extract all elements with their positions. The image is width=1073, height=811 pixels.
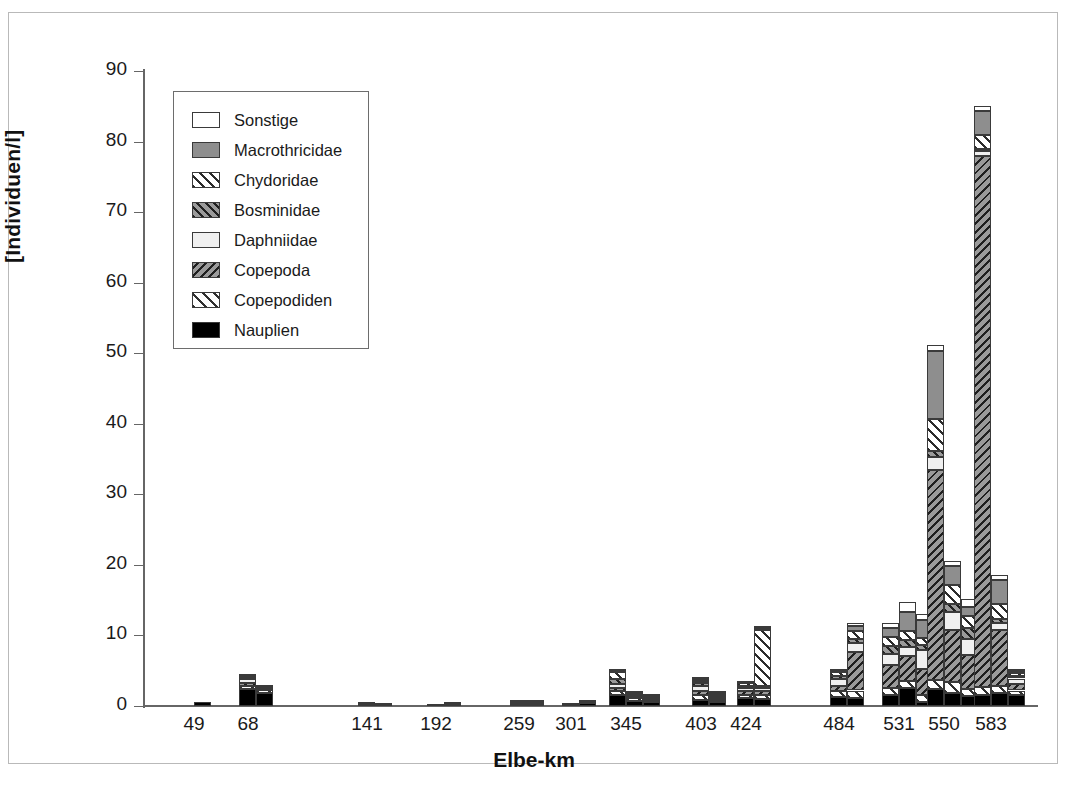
bar-segment-daphniidae [882,654,899,665]
y-tick [134,212,143,213]
y-axis-title: [Individuen/l] [1,130,25,263]
bar-segment-copepodiden [1008,691,1025,695]
bar-segment-chydoridae [830,672,847,676]
y-tick-label: 80 [67,129,127,151]
bar-segment-copepodiden [991,686,1008,693]
bar-583-1 [974,106,991,706]
bar-segment-nauplien [737,698,754,706]
bar-segment-sonstige [974,106,991,110]
x-tick-label-68: 68 [237,713,258,735]
bar-segment-chydoridae [609,672,626,679]
chart-frame: [Individuen/l] Elbe-km 01020304050607080… [8,12,1058,764]
bar-segment-chydoridae [899,631,916,641]
y-tick [134,635,143,636]
bar-segment-daphniidae [974,151,991,155]
bar-segment-copepoda [944,630,961,682]
bar-segment-copepodiden [737,695,754,699]
bar-403-2 [709,693,726,706]
bar-segment-copepodiden [375,703,392,705]
bar-segment-sonstige [643,694,660,696]
bar-segment-sonstige [527,700,544,702]
y-tick-label: 90 [67,58,127,80]
bar-segment-bosminidae [609,679,626,684]
bar-424-1 [737,682,754,706]
bar-segment-copepoda [882,665,899,688]
legend-swatch-copepodiden-icon [192,292,220,308]
bar-segment-chydoridae [882,637,899,646]
bar-segment-nauplien [991,693,1008,706]
legend-label: Copepodiden [234,291,332,310]
bar-segment-copepoda [847,652,864,691]
legend-item-daphniidae: Daphniidae [192,226,368,254]
legend-label: Macrothricidae [234,141,342,160]
bar-segment-copepodiden [609,691,626,695]
y-tick [134,565,143,566]
x-tick-label-345: 345 [610,713,642,735]
bar-segment-daphniidae [626,694,643,696]
bar-segment-sonstige [754,626,771,628]
bar-segment-nauplien [709,702,726,706]
bar-segment-sonstige [927,345,944,351]
x-tick-label-192: 192 [420,713,452,735]
bar-segment-bosminidae [882,646,899,654]
bar-301-1 [562,704,579,706]
bar-segment-copepodiden [692,695,709,699]
bar-segment-sonstige [256,685,273,687]
bar-segment-nauplien [754,699,771,706]
legend-swatch-chydoridae-icon [192,172,220,188]
x-axis-title: Elbe-km [9,748,1059,772]
bar-68-2 [256,686,273,706]
legend-label: Bosminidae [234,201,320,220]
bar-345-3 [643,695,660,706]
bar-segment-daphniidae [709,696,726,698]
legend-swatch-nauplien-icon [192,322,220,338]
legend-item-sonstige: Sonstige [192,106,368,134]
bar-segment-copepoda [754,691,771,695]
chart-legend: SonstigeMacrothricidaeChydoridaeBosminid… [173,91,369,349]
bar-segment-macrothricidae [927,351,944,419]
bar-segment-copepoda [692,691,709,695]
bar-segment-nauplien [194,702,211,706]
bar-segment-chydoridae [974,135,991,149]
y-tick-label: 10 [67,622,127,644]
bar-531-1 [882,623,899,706]
bar-segment-daphniidae [239,679,256,683]
y-tick-label: 50 [67,340,127,362]
bar-segment-copepodiden [643,700,660,702]
y-tick [134,142,143,143]
bar-segment-nauplien [510,704,527,706]
bar-segment-chydoridae [847,631,864,639]
bar-segment-nauplien [239,689,256,706]
bar-segment-nauplien [944,693,961,706]
bar-segment-bosminidae [830,676,847,680]
bar-segment-macrothricidae [847,626,864,630]
bar-segment-sonstige [737,681,754,683]
bar-segment-macrothricidae [974,111,991,135]
y-tick-label: 40 [67,411,127,433]
bar-531-2 [899,602,916,706]
bar-484-2 [847,623,864,706]
bar-segment-copepoda [1008,684,1025,690]
bar-segment-daphniidae [944,612,961,630]
bar-segment-chydoridae [927,419,944,451]
bar-403-1 [692,678,709,706]
bar-segment-sonstige [609,669,626,671]
y-tick [134,71,143,72]
legend-label: Nauplien [234,321,299,340]
bar-segment-daphniidae [1008,679,1025,685]
bar-segment-nauplien [882,695,899,706]
bar-segment-copepoda [927,470,944,680]
bar-68-1 [239,674,256,706]
bar-segment-bosminidae [991,619,1008,623]
bar-segment-copepoda [579,700,596,702]
bar-segment-macrothricidae [944,566,961,586]
bar-segment-chydoridae [991,604,1008,618]
bar-segment-nauplien [358,704,375,706]
bar-segment-daphniidae [692,686,709,691]
bar-550-2 [944,561,961,706]
bar-segment-copepodiden [754,695,771,699]
x-tick-label-550: 550 [928,713,960,735]
x-tick-label-259: 259 [503,713,535,735]
y-tick [134,424,143,425]
bar-segment-daphniidae [754,688,771,691]
